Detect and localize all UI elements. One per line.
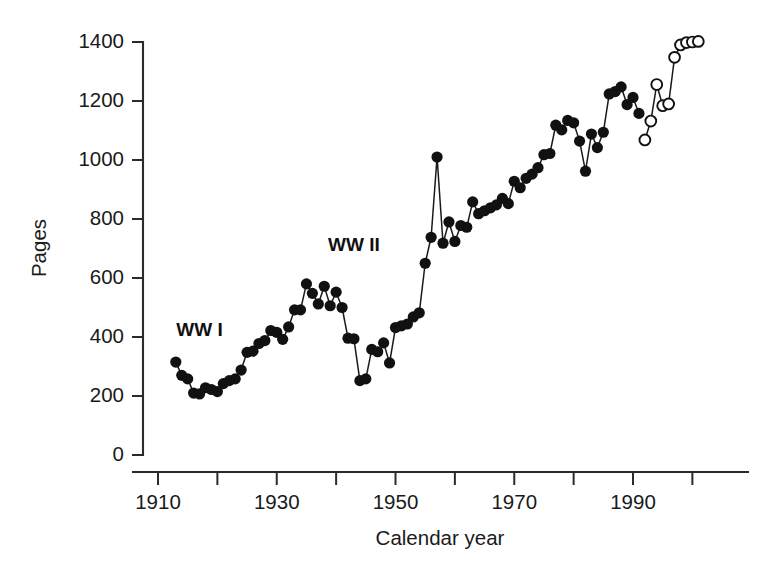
data-point xyxy=(544,148,555,159)
data-point xyxy=(627,92,638,103)
data-point xyxy=(348,333,359,344)
data-point xyxy=(645,116,656,127)
y-axis-ticks xyxy=(132,42,143,455)
data-point xyxy=(414,307,425,318)
data-point xyxy=(360,373,371,384)
data-point xyxy=(325,300,336,311)
pages-vs-calendar-year-chart: 0200400600800100012001400 19101930195019… xyxy=(0,0,775,561)
data-point xyxy=(449,236,460,247)
data-point xyxy=(437,238,448,249)
data-point xyxy=(295,304,306,315)
data-point xyxy=(592,142,603,153)
connector-segment xyxy=(431,157,437,237)
x-tick-label-1990: 1990 xyxy=(610,490,656,513)
data-point xyxy=(532,162,543,173)
y-tick-label-600: 600 xyxy=(90,265,124,288)
data-point xyxy=(515,182,526,193)
chart-canvas: 0200400600800100012001400 19101930195019… xyxy=(0,0,775,561)
data-point xyxy=(259,335,270,346)
data-point xyxy=(598,127,609,138)
data-point xyxy=(277,334,288,345)
data-point xyxy=(420,258,431,269)
y-tick-label-800: 800 xyxy=(90,206,124,229)
data-point xyxy=(568,117,579,128)
x-axis-tick-labels: 19101930195019701990 xyxy=(135,490,656,513)
y-tick-label-1200: 1200 xyxy=(78,88,124,111)
data-point xyxy=(503,198,514,209)
data-point xyxy=(182,373,193,384)
data-point xyxy=(556,124,567,135)
connector-segment xyxy=(419,263,425,313)
data-point xyxy=(384,357,395,368)
data-point xyxy=(336,302,347,313)
chart-annotations: WW IWW II xyxy=(176,234,379,339)
connector-segment xyxy=(354,339,360,381)
y-tick-label-1000: 1000 xyxy=(78,147,124,170)
data-point xyxy=(301,278,312,289)
connector-segment xyxy=(669,57,675,104)
data-point xyxy=(651,79,662,90)
data-point xyxy=(574,136,585,147)
connector-segment xyxy=(586,134,592,171)
x-axis-title: Calendar year xyxy=(376,526,505,549)
y-axis-tick-labels: 0200400600800100012001400 xyxy=(78,29,124,465)
x-tick-label-1950: 1950 xyxy=(373,490,419,513)
y-axis-title: Pages xyxy=(27,219,50,277)
data-point xyxy=(170,356,181,367)
x-tick-label-1930: 1930 xyxy=(254,490,300,513)
data-point xyxy=(319,281,330,292)
data-point xyxy=(331,287,342,298)
data-point xyxy=(307,288,318,299)
y-tick-label-200: 200 xyxy=(90,383,124,406)
connector-segment xyxy=(437,157,443,243)
x-axis-ticks xyxy=(158,472,692,485)
data-point xyxy=(236,364,247,375)
x-tick-label-1970: 1970 xyxy=(491,490,537,513)
annotation-ww2: WW II xyxy=(328,234,380,255)
data-point xyxy=(693,36,704,47)
data-point xyxy=(461,222,472,233)
data-point xyxy=(283,321,294,332)
y-tick-label-1400: 1400 xyxy=(78,29,124,52)
data-point xyxy=(663,99,674,110)
annotation-ww1: WW I xyxy=(176,319,222,340)
data-point xyxy=(669,52,680,63)
data-points-observed xyxy=(170,81,644,399)
data-point xyxy=(633,108,644,119)
connector-segment xyxy=(603,94,609,132)
x-tick-label-1910: 1910 xyxy=(135,490,181,513)
data-point xyxy=(426,232,437,243)
data-point xyxy=(467,196,478,207)
data-point xyxy=(378,337,389,348)
data-point xyxy=(639,135,650,146)
data-point xyxy=(313,298,324,309)
data-point xyxy=(443,216,454,227)
data-point xyxy=(586,128,597,139)
data-point xyxy=(431,151,442,162)
data-point xyxy=(580,166,591,177)
y-tick-label-0: 0 xyxy=(113,442,124,465)
y-tick-label-400: 400 xyxy=(90,324,124,347)
data-point xyxy=(616,81,627,92)
